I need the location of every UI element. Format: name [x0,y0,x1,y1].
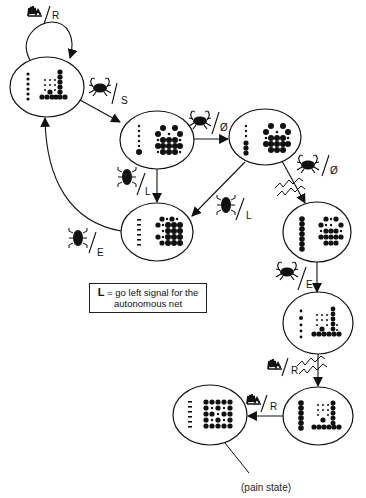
signal-label: L [246,210,252,221]
crab-icon [189,111,211,129]
state-8-pain [173,385,247,445]
state-5 [283,202,351,262]
pain-pointer [225,443,249,473]
signal-label: L [145,186,151,197]
signal-label: E [306,279,313,290]
state-7 [283,387,353,445]
signal-label: S [121,95,128,106]
signal-label: Ø [220,122,228,133]
signal-label: R [270,401,277,412]
state-1 [10,57,84,117]
transition-s7-s8: R [247,394,283,416]
signal-label: R [291,365,298,376]
noise-icon [28,6,42,16]
noise-icon [247,394,261,404]
noise-icon [268,359,282,369]
shock-icon [275,178,305,196]
transition-s3-s4: L [192,162,252,221]
state-3 [229,109,301,165]
transition-s2-s3: Ø [189,111,228,139]
state-4 [121,203,193,261]
transition-s4-s1: E [45,118,121,258]
bug-icon [118,167,136,187]
transition-s3-s5: Ø [275,155,338,203]
signal-label: Ø [330,165,338,176]
state-diagram: R S Ø L L E Ø [0,0,366,498]
transition-s1-self: R [26,6,72,60]
crab-icon [276,262,298,280]
signal-label: E [97,247,104,258]
crab-icon [297,155,319,173]
transition-s2-s4: L [118,167,157,202]
signal-label: R [52,10,59,21]
state-6 [283,292,353,354]
bug-icon [69,228,87,248]
state-2 [120,111,194,169]
shock-icon [297,356,327,374]
pain-state-caption: (pain state) [241,482,291,493]
legend-text: = go left signal for the autonomous net [104,287,198,309]
bug-icon [217,195,235,215]
transition-s6-s7: R [268,354,327,386]
transition-s1-s2: S [80,78,128,122]
crab-icon [89,78,111,96]
transition-s5-s6: E [276,262,317,292]
legend-box: L = go left signal for the autonomous ne… [89,283,207,313]
